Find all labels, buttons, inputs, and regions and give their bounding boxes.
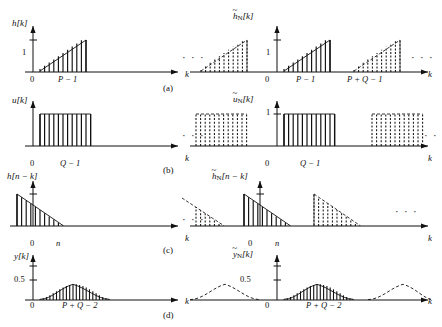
y-axis-arrow: [30, 26, 35, 33]
stems-u-per-main: [284, 114, 335, 146]
row-tag-b: (b): [163, 166, 174, 175]
xtick-PQ-2-d: P + Q − 2: [62, 301, 97, 310]
xaxis-label-a-right: k: [428, 70, 432, 79]
ellipsis-left-c: · · ·: [182, 214, 205, 225]
signal-label-y-per: ~yN[k]: [233, 250, 253, 260]
xtick-zero-c-right: 0: [248, 239, 252, 248]
x-axis-arrow: [171, 297, 178, 302]
xtick-zero-d-right: 0: [265, 301, 269, 310]
y-axis-arrow: [30, 181, 35, 188]
xtick-PQ-1-a-right: P + Q − 1: [347, 75, 382, 84]
panel-b-right: [180, 96, 442, 158]
row-tag-a: (a): [163, 84, 173, 93]
xtick-P-1-a: P − 1: [58, 75, 77, 84]
panel-a-right: [180, 14, 442, 80]
row-tag-d: (d): [163, 311, 174, 320]
xaxis-label-d-right: k: [428, 297, 432, 306]
xtick-zero-b: 0: [30, 159, 34, 168]
tilde-accent: ~: [232, 6, 237, 15]
ytick-one-a-right: 1: [266, 48, 270, 57]
stems-u: [40, 114, 91, 146]
xaxis-label-c-right: k: [428, 234, 432, 243]
y-axis-arrow: [30, 101, 35, 108]
arg: [k]: [243, 94, 254, 104]
ellipsis-left-a: · · ·: [182, 52, 205, 63]
xtick-zero-d: 0: [30, 301, 34, 310]
xtick-zero-a-right: 0: [265, 75, 269, 84]
x-axis-arrow: [171, 143, 178, 148]
panel-c-left: [0, 176, 200, 238]
xtick-n-c-right: n: [275, 239, 279, 248]
arg: [k]: [242, 249, 253, 259]
ytick-half-d-right: 0.5: [240, 275, 251, 284]
envelope-y-per-right: [368, 284, 432, 299]
xtick-Q-1-b: Q − 1: [60, 159, 80, 168]
ytick-one-b-right: 1: [266, 108, 270, 117]
x-axis-arrow: [171, 223, 178, 228]
x-axis-arrow: [421, 297, 428, 302]
tilde-accent: ~: [211, 166, 216, 175]
arg: [k]: [243, 11, 254, 21]
signal-label-y: y[k]: [14, 252, 29, 261]
x-axis-arrow: [421, 69, 428, 74]
tilde-accent: ~: [232, 244, 237, 253]
signal-label-u: u[k]: [12, 96, 28, 105]
ellipsis-right-c: · · ·: [395, 206, 418, 217]
panel-a-left: [0, 14, 200, 80]
y-axis-arrow: [274, 255, 279, 262]
ellipsis-right-a: · · ·: [411, 52, 434, 63]
envelope-y-per-left: [190, 284, 260, 299]
convolution-figure: h[k] 1 0 P − 1 k (a): [0, 0, 442, 327]
arg: [n − k]: [222, 171, 248, 181]
signal-label-u-per: ~uN[k]: [233, 95, 254, 105]
xtick-zero-c: 0: [30, 239, 34, 248]
ytick-one-a: 1: [22, 48, 26, 57]
xaxis-label-b-right: k: [428, 154, 432, 163]
signal-label-h-per: ~hN[k]: [233, 12, 254, 22]
xtick-zero-b-right: 0: [265, 159, 269, 168]
signal-label-h: h[k]: [12, 19, 28, 28]
envelope-h-per-right: [354, 40, 400, 71]
signal-label-h-rev: h[n − k]: [7, 172, 38, 181]
xtick-Q-1-b-right: Q − 1: [300, 159, 320, 168]
signal-label-h-rev-per: ~hN[n − k]: [212, 172, 248, 182]
ytick-half-d: 0.5: [14, 275, 25, 284]
xtick-PQ-2-d-right: P + Q − 2: [306, 301, 341, 310]
envelope-h-per-left: [201, 40, 247, 71]
y-axis-arrow: [257, 181, 262, 188]
xtick-P-1-a-right: P − 1: [296, 75, 315, 84]
y-axis-arrow: [274, 26, 279, 33]
y-axis-arrow: [274, 101, 279, 108]
x-axis-arrow: [171, 69, 178, 74]
ellipsis-right-b: · · ·: [424, 130, 442, 152]
ellipsis-left-b: · · ·: [182, 130, 205, 141]
xtick-n-c: n: [56, 239, 60, 248]
xtick-zero-a: 0: [30, 75, 34, 84]
stems-y-per-main: [284, 284, 353, 300]
stems-y: [40, 284, 109, 300]
y-axis-arrow: [30, 255, 35, 262]
x-axis-arrow: [421, 223, 428, 228]
stems-u-per-right: [372, 114, 423, 146]
tilde-accent: ~: [232, 89, 237, 98]
panel-b-left: [0, 96, 200, 158]
